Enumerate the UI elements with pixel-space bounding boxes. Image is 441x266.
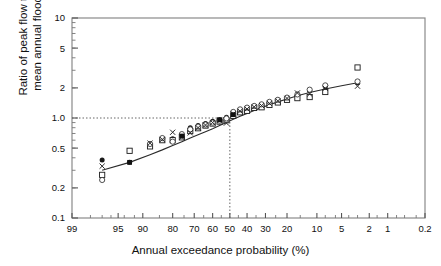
data-point-filled-square (127, 160, 132, 165)
chart-canvas: 10521.00.50.20.1999590807060504030201052… (0, 0, 441, 266)
x-axis-tick-label: 95 (113, 223, 124, 234)
data-point-filled-square (231, 112, 236, 117)
x-axis-tick-label: 1 (385, 223, 390, 234)
y-axis-tick-label: 1.0 (52, 112, 65, 123)
x-axis-title: Annual exceedance probability (%) (0, 244, 441, 256)
y-axis-tick-label: 2 (60, 82, 65, 93)
data-point-open-square (355, 65, 360, 70)
figure-container: 10521.00.50.20.1999590807060504030201052… (0, 0, 441, 266)
x-axis-tick-label: 10 (312, 223, 323, 234)
y-axis-tick-label: 0.5 (52, 143, 65, 154)
data-point-filled-square (217, 117, 222, 122)
y-axis-title-line-2: mean annual flood (30, 0, 44, 134)
x-axis-tick-label: 20 (282, 223, 293, 234)
x-axis-tick-label: 60 (207, 223, 218, 234)
open-circle-series (100, 79, 361, 183)
data-point-filled-square (179, 134, 184, 139)
data-point-x-cross (100, 164, 105, 169)
data-point-open-circle (170, 139, 175, 144)
x-axis-tick-label: 40 (242, 223, 253, 234)
x-axis-tick-label: 5 (339, 223, 344, 234)
data-point-open-circle (147, 141, 152, 146)
x-axis-tick-label: 80 (167, 223, 178, 234)
y-axis-title: Ratio of peak flow to mean annual flood (17, 0, 44, 134)
data-point-open-square (127, 148, 132, 153)
y-axis-tick-label: 10 (54, 12, 65, 23)
x-axis-tick-label: 50 (225, 223, 236, 234)
data-point-x-cross (170, 130, 175, 135)
x-axis-tick-label: 90 (138, 223, 149, 234)
data-point-open-circle (355, 79, 360, 84)
data-point-open-circle (224, 116, 229, 121)
y-axis-tick-label: 0.1 (52, 212, 65, 223)
data-point-open-circle (252, 103, 257, 108)
data-point-open-circle (100, 177, 105, 182)
data-point-filled-circle (100, 158, 105, 163)
x-axis-tick-label: 0.2 (418, 223, 431, 234)
y-axis-tick-label: 5 (60, 43, 65, 54)
data-point-open-square (100, 172, 105, 177)
x-axis-tick-label: 30 (260, 223, 271, 234)
data-point-open-circle (284, 95, 289, 100)
data-point-open-circle (195, 124, 200, 129)
x-axis-tick-label: 99 (67, 223, 78, 234)
y-axis-tick-label: 0.2 (52, 182, 65, 193)
x-axis-tick-label: 2 (367, 223, 372, 234)
x-axis-tick-label: 70 (189, 223, 200, 234)
y-axis-title-line-1: Ratio of peak flow to (17, 0, 31, 134)
